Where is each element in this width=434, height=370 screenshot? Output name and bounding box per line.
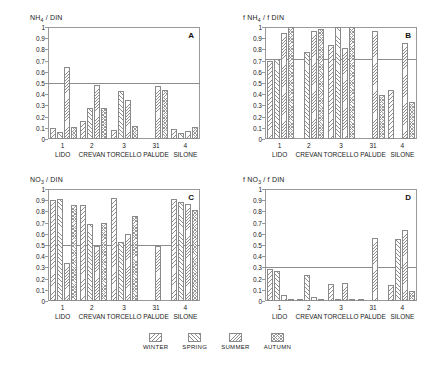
bar-group xyxy=(356,27,386,139)
bar xyxy=(118,242,124,301)
panel-D: f NO3 / f DIN D 10.90.80.70.60.50.40.30.… xyxy=(217,168,434,328)
bar xyxy=(297,299,303,301)
y-tick-mark xyxy=(262,72,265,73)
bar xyxy=(162,90,168,139)
bar-group xyxy=(326,27,356,139)
panel-C-bar-groups xyxy=(48,189,200,301)
bar xyxy=(111,130,117,139)
panel-A-plotarea: A 10.90.80.70.60.50.40.30.20.10 xyxy=(48,27,200,139)
bar xyxy=(185,131,191,139)
y-tick-mark xyxy=(45,189,48,190)
bar xyxy=(50,128,56,139)
bar xyxy=(349,299,355,301)
panel-D-axis-title: f NO3 / f DIN xyxy=(243,176,285,185)
bar xyxy=(71,127,77,139)
x-axis-label: 31PALUDE xyxy=(141,304,170,321)
bar xyxy=(342,48,348,139)
bar xyxy=(342,283,348,301)
x-axis-label: 4SILONE xyxy=(388,142,417,159)
x-axis-label: 31PALUDE xyxy=(141,142,170,159)
bar xyxy=(101,223,107,301)
x-axis-label: 4SILONE xyxy=(388,304,417,321)
winter-swatch xyxy=(149,333,162,342)
bar-group xyxy=(387,189,417,301)
y-tick-mark xyxy=(262,267,265,268)
bar xyxy=(171,129,177,139)
panel-B-bar-groups xyxy=(265,27,417,139)
bar xyxy=(155,246,161,301)
bar xyxy=(50,200,56,301)
y-tick-mark xyxy=(262,139,265,140)
legend-label: SPRING xyxy=(182,344,207,350)
legend-label: SUMMER xyxy=(221,344,249,350)
y-tick-mark xyxy=(45,128,48,129)
bar-group xyxy=(295,189,325,301)
bar-group xyxy=(109,189,139,301)
bar xyxy=(192,210,198,301)
y-tick-mark xyxy=(45,256,48,257)
panel-D-plotarea: D 10.90.80.70.60.50.40.30.20.10 xyxy=(265,189,417,301)
x-axis-label: 1LIDO xyxy=(48,304,77,321)
bar xyxy=(80,121,86,139)
bar xyxy=(101,108,107,139)
bar-group xyxy=(295,27,325,139)
x-axis-label: 1LIDO xyxy=(265,142,294,159)
y-tick-mark xyxy=(262,245,265,246)
bar xyxy=(94,246,100,301)
x-axis-label: 3TORCELLO xyxy=(107,142,142,159)
bar xyxy=(57,199,63,301)
bar xyxy=(328,45,334,139)
bar xyxy=(267,269,273,301)
y-tick-mark xyxy=(45,94,48,95)
y-tick-mark xyxy=(262,49,265,50)
bar-group xyxy=(170,27,200,139)
y-tick-mark xyxy=(45,83,48,84)
y-tick-mark xyxy=(45,301,48,302)
y-tick-mark xyxy=(45,72,48,73)
panel-A: NH4 / DIN A 10.90.80.70.60.50.40.30.20.1… xyxy=(0,0,217,185)
legend-item: SPRING xyxy=(182,333,207,350)
panel-A-bar-groups xyxy=(48,27,200,139)
y-tick-mark xyxy=(45,211,48,212)
bar xyxy=(304,275,310,301)
bar xyxy=(178,202,184,301)
bar xyxy=(125,100,131,139)
bar-group xyxy=(78,189,108,301)
y-tick-mark xyxy=(262,200,265,201)
bar-group xyxy=(78,27,108,139)
bar xyxy=(267,61,273,139)
bar xyxy=(395,239,401,301)
y-tick-mark xyxy=(262,61,265,62)
x-axis-label: 2CREVAN xyxy=(294,304,323,321)
bar xyxy=(388,90,394,139)
x-axis-label: 4SILONE xyxy=(171,304,200,321)
bar xyxy=(125,234,131,301)
panel-B-axis-title: f NH4 / f DIN xyxy=(243,14,284,23)
x-axis-label: 31PALUDE xyxy=(358,304,387,321)
x-axis-label: 2CREVAN xyxy=(77,142,106,159)
panel-C: NO3 / DIN C 10.90.80.70.60.50.40.30.20.1… xyxy=(0,168,217,328)
legend-item: WINTER xyxy=(143,333,168,350)
bar xyxy=(274,271,280,301)
bar-group xyxy=(139,189,169,301)
y-tick-mark xyxy=(262,279,265,280)
y-tick-mark xyxy=(45,61,48,62)
y-tick-mark xyxy=(262,223,265,224)
y-tick-mark xyxy=(45,105,48,106)
x-axis-label: 1LIDO xyxy=(265,304,294,321)
y-tick-mark xyxy=(262,211,265,212)
autumn-swatch xyxy=(271,333,284,342)
bar xyxy=(335,27,341,139)
y-tick-mark xyxy=(45,27,48,28)
y-tick-mark xyxy=(45,38,48,39)
bar xyxy=(281,295,287,301)
y-tick-mark xyxy=(262,117,265,118)
y-tick-mark xyxy=(262,94,265,95)
y-tick-mark xyxy=(262,38,265,39)
bar xyxy=(94,85,100,139)
y-tick-mark xyxy=(262,128,265,129)
y-tick-mark xyxy=(45,49,48,50)
y-tick-mark xyxy=(262,189,265,190)
bar-group xyxy=(326,189,356,301)
y-tick-mark xyxy=(45,234,48,235)
